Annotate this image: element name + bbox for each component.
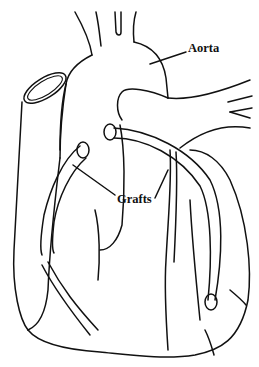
great-vessels bbox=[66, 12, 168, 98]
graft-2 bbox=[41, 142, 89, 255]
grafts-label: Grafts bbox=[117, 192, 152, 207]
grafts-leader-line-2 bbox=[155, 170, 168, 198]
heart-diagram bbox=[0, 0, 259, 367]
heart-outline bbox=[28, 125, 249, 357]
graft-3 bbox=[165, 150, 177, 350]
aorta-label: Aorta bbox=[188, 41, 219, 56]
coronary-vessels bbox=[42, 200, 246, 355]
grafts-leader-line-1 bbox=[73, 165, 115, 195]
vena-cava bbox=[14, 67, 71, 330]
